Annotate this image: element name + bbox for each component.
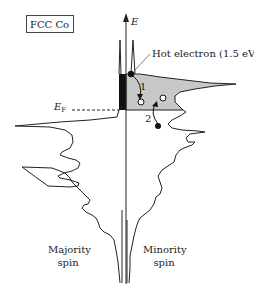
process-2-hole [160,95,166,101]
hot-electron-label: Hot electron (1.5 eV) [152,49,254,59]
fermi-label-sub: F [61,106,66,114]
energy-axis-arrowhead [123,13,129,22]
process-2-electron-dot [155,123,161,129]
dos-plot [0,0,254,296]
fermi-level-label: EF [54,102,66,112]
process-1-label: 1 [140,82,146,92]
dos-diagram: FCC Co E Hot electron (1.5 eV) EF 1 2 Ma… [0,0,254,296]
minority-label-line2: spin [143,258,185,268]
diagram-title: FCC Co [30,20,69,30]
minority-spin-label: Minority spin [143,245,185,268]
process-2-label: 2 [145,114,151,124]
majority-label-line2: spin [48,258,88,268]
majority-spin-label: Majority spin [48,245,88,268]
minority-label-line1: Minority [143,245,185,255]
minority-spike [131,40,135,74]
majority-spike [119,40,121,74]
hot-electron-pointer [134,54,150,71]
majority-occupied-block [119,74,126,110]
majority-label-line1: Majority [48,245,88,255]
energy-axis-label: E [131,17,138,27]
process-1-hole [138,99,144,105]
